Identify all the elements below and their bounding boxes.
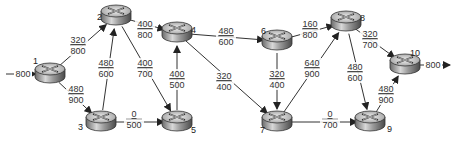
edge-capacity: 700 bbox=[322, 120, 337, 130]
edge-flow: 400 bbox=[137, 19, 152, 29]
router-5 bbox=[162, 111, 192, 131]
edge-capacity: 400 bbox=[269, 80, 284, 90]
edge-flow: 640 bbox=[304, 58, 319, 68]
edge-capacity: 500 bbox=[126, 120, 141, 130]
router-4 bbox=[162, 22, 192, 42]
router-label-7: 7 bbox=[260, 125, 265, 135]
edge-flow: 320 bbox=[269, 69, 284, 79]
router-3 bbox=[86, 111, 116, 131]
edge-labels-layer: 3208004809004806004008004007000500400500… bbox=[66, 19, 396, 130]
edge-flow: 320 bbox=[362, 29, 377, 39]
router-2 bbox=[101, 5, 131, 25]
edge-capacity: 600 bbox=[98, 69, 113, 79]
router-9 bbox=[355, 111, 385, 131]
edge-flow: 480 bbox=[98, 58, 113, 68]
edge-capacity: 700 bbox=[362, 40, 377, 50]
router-label-8: 8 bbox=[360, 13, 365, 23]
sink-output-label: 800 bbox=[425, 60, 440, 70]
edge-flow: 480 bbox=[68, 84, 83, 94]
edge-flow: 480 bbox=[378, 84, 393, 94]
router-label-10: 10 bbox=[410, 48, 420, 58]
edge-capacity: 600 bbox=[218, 37, 233, 47]
router-label-1: 1 bbox=[33, 56, 38, 66]
edge-capacity: 400 bbox=[216, 82, 231, 92]
edge-capacity: 900 bbox=[68, 95, 83, 105]
router-label-6: 6 bbox=[261, 26, 266, 36]
edge-flow: 0 bbox=[131, 109, 136, 119]
edge-label-8-10: 320700 bbox=[360, 29, 380, 50]
edge-label-2-5: 400700 bbox=[135, 58, 155, 79]
edge-capacity: 800 bbox=[70, 46, 85, 56]
edge-label-9-10: 480900 bbox=[376, 84, 396, 105]
edge-capacity: 800 bbox=[137, 30, 152, 40]
edge-flow: 320 bbox=[216, 71, 231, 81]
router-6 bbox=[262, 30, 292, 50]
edge-flow: 320 bbox=[70, 35, 85, 45]
edge-label-7-9: 0700 bbox=[320, 109, 340, 130]
edge-capacity: 500 bbox=[169, 80, 184, 90]
edge-capacity: 900 bbox=[378, 95, 393, 105]
edge-capacity: 600 bbox=[347, 73, 362, 83]
router-1 bbox=[35, 63, 65, 83]
edge-capacity: 900 bbox=[304, 69, 319, 79]
router-label-3: 3 bbox=[78, 122, 83, 132]
router-label-2: 2 bbox=[97, 12, 102, 22]
router-8 bbox=[331, 11, 361, 31]
edge-label-3-5: 0500 bbox=[124, 109, 144, 130]
edge-label-1-2: 320800 bbox=[68, 35, 88, 56]
edge-label-8-9: 480600 bbox=[345, 62, 365, 83]
source-input-label: 800 bbox=[15, 69, 30, 79]
edge-label-4-7: 320400 bbox=[214, 71, 234, 92]
edge-flow: 0 bbox=[327, 109, 332, 119]
edge-label-3-2: 480600 bbox=[96, 58, 116, 79]
edge-label-7-8: 640900 bbox=[302, 58, 322, 79]
router-label-9: 9 bbox=[387, 124, 392, 134]
edge-flow: 400 bbox=[137, 58, 152, 68]
network-graph: 800800 12345678910 320800480900480600400… bbox=[0, 0, 455, 144]
edge-label-4-6: 480600 bbox=[216, 26, 236, 47]
router-label-5: 5 bbox=[191, 125, 196, 135]
edge-label-6-8: 160800 bbox=[300, 19, 320, 40]
flow-network-diagram: 800800 12345678910 320800480900480600400… bbox=[0, 0, 455, 144]
edge-capacity: 800 bbox=[302, 30, 317, 40]
edge-label-1-3: 480900 bbox=[66, 84, 86, 105]
edge-flow: 480 bbox=[347, 62, 362, 72]
edge-label-5-4: 400500 bbox=[167, 69, 187, 90]
edge-capacity: 700 bbox=[137, 69, 152, 79]
edge-flow: 160 bbox=[302, 19, 317, 29]
router-label-4: 4 bbox=[191, 25, 196, 35]
router-7 bbox=[262, 111, 292, 131]
edge-label-2-4: 400800 bbox=[135, 19, 155, 40]
edge-flow: 480 bbox=[218, 26, 233, 36]
edge-label-6-7: 320400 bbox=[267, 69, 287, 90]
edge-flow: 400 bbox=[169, 69, 184, 79]
